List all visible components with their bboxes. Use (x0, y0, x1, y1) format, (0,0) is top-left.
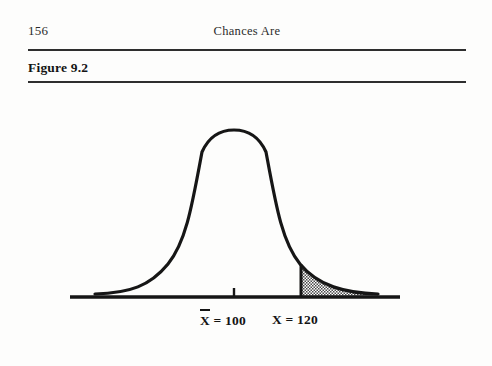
mean-label: X = 100 (200, 309, 246, 332)
mean-label-value: = 100 (210, 313, 246, 328)
header-rule-bottom (28, 81, 466, 83)
cutoff-label: X = 120 (272, 309, 318, 331)
book-title: Chances Are (28, 22, 466, 40)
x-bar-symbol: X (200, 309, 210, 332)
normal-curve-figure (0, 96, 492, 316)
header-rule-top (28, 49, 466, 51)
book-page: 156 Chances Are Figure 9.2 (0, 0, 492, 366)
axis-label-row: X = 100 X = 120 (0, 309, 492, 335)
shaded-tail-region (301, 116, 381, 298)
figure-caption: Figure 9.2 (28, 58, 88, 78)
normal-curve-path (95, 130, 378, 294)
bell-curve-svg (0, 96, 492, 316)
running-head: 156 Chances Are (28, 22, 466, 40)
